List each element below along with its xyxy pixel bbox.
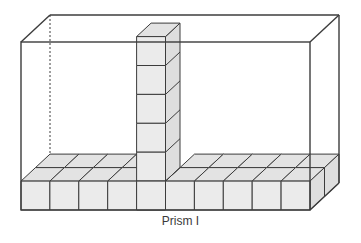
- base-cube-front: [50, 181, 79, 210]
- column-cube-front: [137, 66, 166, 95]
- base-cube-front: [281, 181, 310, 210]
- column-cube-front: [137, 37, 166, 66]
- column-cube-front: [137, 123, 166, 152]
- column-cube-front: [137, 94, 166, 123]
- base-cube-front: [137, 181, 166, 210]
- base-cube-front: [108, 181, 137, 210]
- base-cube-front: [223, 181, 252, 210]
- base-cube-front: [252, 181, 281, 210]
- column-cube-front: [137, 152, 166, 181]
- prism-top-left-edge: [21, 15, 50, 42]
- prism-top-right-edge: [310, 15, 339, 42]
- base-cube-front: [194, 181, 223, 210]
- base-cube-front: [21, 181, 50, 210]
- prism-diagram: [0, 0, 361, 243]
- base-cube-front: [79, 181, 108, 210]
- base-cube-front: [166, 181, 195, 210]
- prism-caption: Prism I: [0, 214, 361, 228]
- column-side-face: [166, 23, 181, 181]
